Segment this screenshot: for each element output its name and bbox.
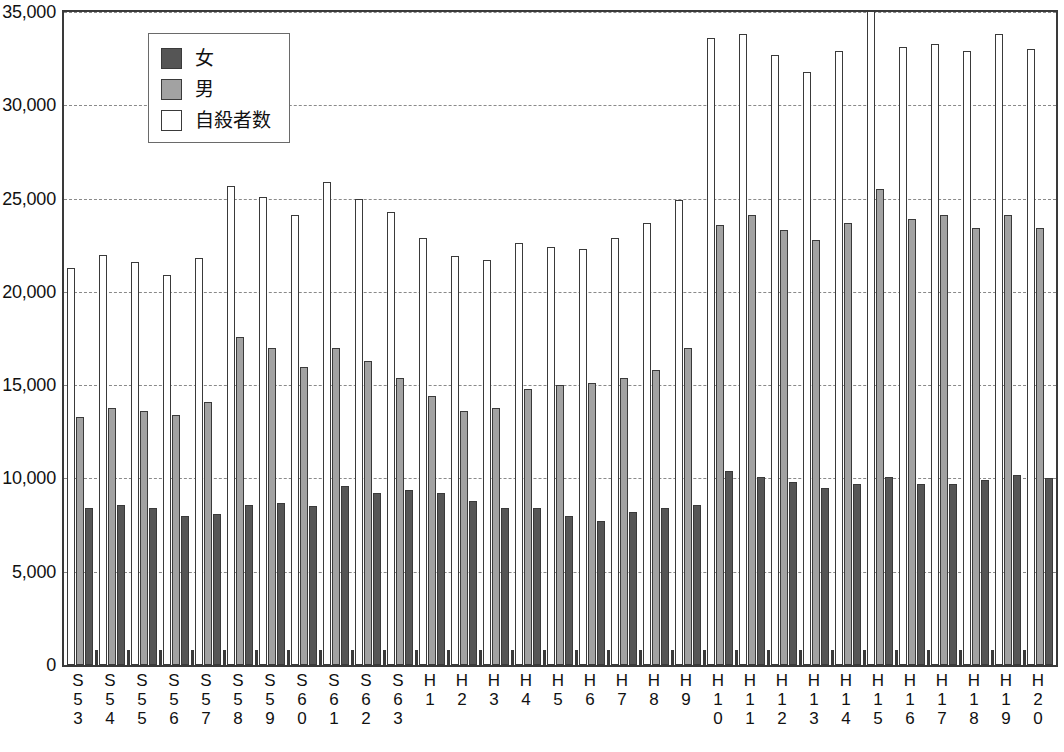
bar-total [579,249,587,665]
legend-item-total: 自殺者数 [161,105,289,135]
bar-female [181,516,189,665]
bar-total [99,255,107,665]
x-axis-tick-label: S55 [126,671,158,728]
x-axis-tick-char: H [990,671,1022,690]
bar-group [768,12,800,665]
x-axis-tick-char: 1 [830,690,862,709]
bar-total [643,223,651,665]
x-axis-tick-label: H9 [670,671,702,709]
x-axis-tick-char: 5 [94,690,126,709]
bar-female [533,508,541,665]
x-axis-tick-char: H [670,671,702,690]
bar-male [204,402,212,665]
bar-total [259,197,267,665]
x-axis-tick-char: 1 [862,690,894,709]
x-axis-tick-char: 1 [702,690,734,709]
x-axis-tick-char: 1 [414,690,446,709]
x-axis-tick-char: S [222,671,254,690]
bar-female [213,514,221,665]
bar-female [629,512,637,665]
bar-female [309,506,317,665]
x-axis-tick-char: H [478,671,510,690]
x-axis-tick-label: S61 [318,671,350,728]
x-axis-tick-char: 1 [734,709,766,728]
x-axis-tick-label: H15 [862,671,894,728]
x-axis-tick-char: 0 [1022,709,1054,728]
x-axis-tick-char: H [1022,671,1054,690]
bar-female [85,508,93,665]
bar-group [992,12,1024,665]
bar-total [611,238,619,665]
x-axis-tick-char: 6 [894,709,926,728]
x-axis-tick-char: 2 [350,709,382,728]
x-axis-tick-char: 5 [126,690,158,709]
bar-total [67,268,75,665]
x-axis-tick-char: 4 [830,709,862,728]
x-axis-tick-label: H20 [1022,671,1054,728]
y-axis-tick-label: 0 [46,656,56,674]
bar-female [341,486,349,665]
bar-male [556,385,564,665]
bar-total [963,51,971,665]
bar-female [661,508,669,665]
bar-male [524,389,532,665]
x-axis-tick-char: 9 [990,709,1022,728]
bar-group [896,12,928,665]
x-axis-tick-char: 6 [158,709,190,728]
bar-female [437,493,445,665]
bar-female [789,482,797,665]
bar-group [864,12,896,665]
bar-total [515,243,523,665]
x-axis: S53S54S55S56S57S58S59S60S61S62S63H1H2H3H… [62,671,1058,751]
x-axis-tick-char: S [318,671,350,690]
x-axis-tick-char: 3 [478,690,510,709]
bar-group [448,12,480,665]
legend-swatch-total [161,110,182,131]
x-axis-tick-label: H10 [702,671,734,728]
x-axis-tick-label: S53 [62,671,94,728]
legend-item-male: 男 [161,74,289,104]
x-axis-tick-char: 2 [766,709,798,728]
bar-male [140,411,148,665]
bar-female [885,477,893,665]
x-axis-tick-char: 6 [382,690,414,709]
bar-female [277,503,285,665]
bar-female [597,521,605,665]
legend-swatch-female [161,48,182,69]
bar-female [693,505,701,665]
bar-female [405,490,413,665]
x-axis-tick-label: S56 [158,671,190,728]
x-axis-tick-char: H [606,671,638,690]
x-axis-tick-char: 4 [94,709,126,728]
bar-group [96,12,128,665]
bar-group [480,12,512,665]
y-axis-tick-label: 15,000 [2,376,56,394]
bar-male [652,370,660,665]
bar-male [492,408,500,665]
x-axis-tick-char: S [158,671,190,690]
bar-total [675,200,683,665]
x-axis-tick-char: S [254,671,286,690]
x-axis-tick-char: S [62,671,94,690]
bar-total [771,55,779,665]
x-axis-tick-char: 5 [222,690,254,709]
x-axis-tick-char: 5 [190,690,222,709]
bar-male [268,348,276,665]
x-axis-tick-char: H [510,671,542,690]
y-axis-tick-label: 20,000 [2,283,56,301]
bar-female [853,484,861,665]
bar-male [1004,215,1012,665]
bar-female [1013,475,1021,665]
x-axis-tick-char: H [574,671,606,690]
bar-male [748,215,756,665]
x-axis-tick-label: H8 [638,671,670,709]
x-axis-tick-char: 6 [350,690,382,709]
bar-male [76,417,84,665]
bar-female [501,508,509,665]
x-axis-tick-label: H6 [574,671,606,709]
x-axis-tick-label: S60 [286,671,318,728]
bar-total [1027,49,1035,665]
bar-male [396,378,404,665]
x-axis-tick-label: S59 [254,671,286,728]
x-axis-tick-label: H12 [766,671,798,728]
